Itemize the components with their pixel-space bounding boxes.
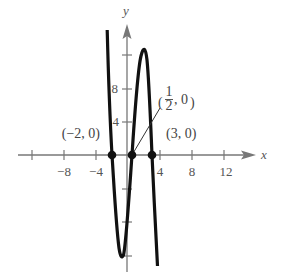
y-axis-label: y: [121, 3, 129, 18]
intercept-point-3: [148, 151, 157, 160]
y-axis: 8 4 y: [112, 3, 133, 272]
x-axis-label: x: [260, 147, 267, 162]
x-tick-label: −4: [89, 164, 103, 179]
x-tick-label: 4: [157, 164, 164, 179]
point-label-3: (3, 0): [166, 126, 197, 142]
y-tick-label: 8: [112, 81, 119, 96]
point-label-half: ( 1 2 , 0 ): [158, 84, 195, 113]
y-tick-label: 4: [113, 114, 120, 129]
svg-text:2: 2: [166, 98, 173, 113]
x-axis: −8 −4 4 8 12 x: [18, 147, 267, 179]
point-label-neg2: (−2, 0): [62, 126, 101, 142]
svg-text:, 0: , 0: [174, 92, 188, 107]
x-tick-label: 8: [189, 164, 196, 179]
polynomial-curve: [107, 30, 157, 266]
polynomial-graph: −8 −4 4 8 12 x 8 4 y (−2, 0) (3, 0) ( 1: [0, 0, 281, 280]
svg-text:(: (: [158, 95, 163, 111]
svg-text:1: 1: [166, 84, 173, 99]
intercept-point-neg2: [108, 151, 117, 160]
svg-text:): ): [190, 95, 195, 111]
intercept-point-half: [128, 151, 137, 160]
x-tick-label: −8: [57, 164, 71, 179]
x-tick-label: 12: [220, 164, 233, 179]
